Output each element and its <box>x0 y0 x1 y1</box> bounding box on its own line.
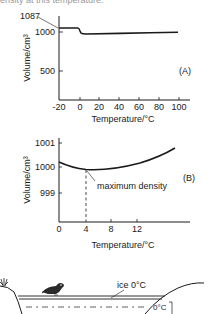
chart-b-ytick-999: 999 <box>40 188 55 198</box>
chart-a-xtick: 0 <box>77 102 82 112</box>
chart-a-annotation-1087: 1087 <box>20 11 40 21</box>
chart-a-volume-curve <box>59 28 178 34</box>
chart-a: 1000 500 1087 -20 0 20 40 60 80 100 Temp… <box>20 11 191 124</box>
chart-b-ylabel: Volume/cm³ <box>22 156 32 204</box>
water-temp-label: 0°C <box>153 303 167 312</box>
water-density-figure: 1000 500 1087 -20 0 20 40 60 80 100 Temp… <box>0 0 215 314</box>
chart-a-panel-label: (A) <box>179 66 191 76</box>
grass-icon <box>0 278 8 286</box>
chart-a-ylabel: Volume/cm³ <box>22 34 32 82</box>
chart-a-xtick: 40 <box>114 102 124 112</box>
chart-b-xtick: 4 <box>83 224 88 234</box>
chart-b-ytick-1000: 1000 <box>35 162 55 172</box>
chart-b-panel-label: (B) <box>183 173 195 183</box>
bird-icon <box>42 283 64 296</box>
chart-a-xtick: 60 <box>134 102 144 112</box>
chart-b-ytick-1001: 1001 <box>35 138 55 148</box>
chart-a-ytick-1000: 1000 <box>35 27 55 37</box>
chart-b-xtick: 12 <box>132 224 142 234</box>
pond-illustration: ice 0°C 0°C <box>0 278 204 314</box>
chart-a-xtick: 100 <box>171 102 186 112</box>
chart-b-volume-curve <box>59 148 175 170</box>
left-bank <box>0 286 22 314</box>
chart-b-annotation: maximum density <box>97 181 168 191</box>
water-layer-bracket <box>169 302 172 314</box>
chart-a-xlabel: Temperature/°C <box>91 114 155 124</box>
chart-a-xtick: 80 <box>154 102 164 112</box>
chart-a-xtick: -20 <box>52 102 65 112</box>
chart-a-ytick-500: 500 <box>40 66 55 76</box>
chart-b-xlabel: Temperature/°C <box>91 240 155 250</box>
chart-a-xtick: 20 <box>94 102 104 112</box>
chart-b-xtick: 8 <box>108 224 113 234</box>
ice-label: ice 0°C <box>117 280 147 290</box>
chart-b: 1001 1000 999 0 4 8 12 Temperature/°C Vo… <box>22 138 195 250</box>
chart-b-xtick: 0 <box>56 224 61 234</box>
